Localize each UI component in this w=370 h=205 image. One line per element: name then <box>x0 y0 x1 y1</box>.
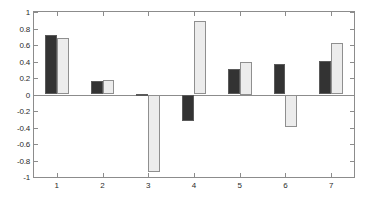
x-axis-tick-label: 1 <box>55 181 59 190</box>
y-axis-tick-right <box>350 111 354 112</box>
y-axis-tick <box>34 177 38 178</box>
y-axis-tick-right <box>350 144 354 145</box>
y-axis-tick <box>34 45 38 46</box>
y-axis-tick-label: 0.8 <box>19 24 30 33</box>
x-axis-tick <box>285 173 286 177</box>
y-axis-tick-label: 0.2 <box>19 74 30 83</box>
x-axis-tick-label: 4 <box>192 181 196 190</box>
y-axis-tick-right <box>350 177 354 178</box>
bar <box>182 95 194 121</box>
y-axis-tick <box>34 29 38 30</box>
y-axis-tick <box>34 62 38 63</box>
bar <box>45 35 57 94</box>
bar <box>136 94 148 96</box>
y-axis-tick <box>34 78 38 79</box>
y-axis-tick-label: -0.8 <box>17 156 30 165</box>
x-axis-tick <box>148 173 149 177</box>
x-axis-tick-top <box>194 12 195 16</box>
y-axis-tick <box>34 144 38 145</box>
bar <box>91 81 103 94</box>
bar <box>319 61 331 95</box>
x-axis-tick <box>57 173 58 177</box>
x-axis-tick <box>103 173 104 177</box>
plot-area: 10.80.60.40.20-0.2-0.4-0.6-0.8-11234567 <box>33 11 355 178</box>
y-axis-tick <box>34 128 38 129</box>
x-axis-tick <box>240 173 241 177</box>
y-axis-tick <box>34 111 38 112</box>
y-axis-tick-label: -0.2 <box>17 107 30 116</box>
y-axis-tick-label: -1 <box>23 173 30 182</box>
bar <box>57 38 69 94</box>
bar <box>194 21 206 94</box>
y-axis-tick-label: 1 <box>26 8 30 17</box>
x-axis-tick-label: 7 <box>329 181 333 190</box>
bar-chart-figure: 10.80.60.40.20-0.2-0.4-0.6-0.8-11234567 <box>0 0 370 205</box>
y-axis-tick <box>34 161 38 162</box>
bar <box>103 80 115 94</box>
bar <box>148 95 160 173</box>
x-axis-tick-label: 5 <box>237 181 241 190</box>
bar <box>285 95 297 127</box>
y-axis-tick-right <box>350 12 354 13</box>
y-axis-tick-right <box>350 45 354 46</box>
y-axis-tick-right <box>350 161 354 162</box>
y-axis-tick-right <box>350 95 354 96</box>
y-axis-tick-right <box>350 62 354 63</box>
y-axis-tick <box>34 95 38 96</box>
x-axis-tick-top <box>285 12 286 16</box>
bar <box>274 64 286 95</box>
x-axis-tick-top <box>331 12 332 16</box>
y-axis-tick-label: 0.6 <box>19 41 30 50</box>
bar <box>331 43 343 94</box>
y-axis-tick-label: 0 <box>26 90 30 99</box>
bar <box>240 62 252 95</box>
x-axis-tick-top <box>57 12 58 16</box>
y-axis-tick <box>34 12 38 13</box>
y-axis-tick-label: 0.4 <box>19 57 30 66</box>
x-axis-tick-top <box>103 12 104 16</box>
zero-baseline <box>34 95 354 96</box>
x-axis-tick-label: 2 <box>100 181 104 190</box>
y-axis-tick-right <box>350 29 354 30</box>
x-axis-tick-label: 3 <box>146 181 150 190</box>
x-axis-tick-label: 6 <box>283 181 287 190</box>
x-axis-tick-top <box>148 12 149 16</box>
x-axis-tick-top <box>240 12 241 16</box>
bar <box>228 69 240 95</box>
y-axis-tick-label: -0.6 <box>17 140 30 149</box>
y-axis-tick-label: -0.4 <box>17 123 30 132</box>
y-axis-tick-right <box>350 128 354 129</box>
y-axis-tick-right <box>350 78 354 79</box>
x-axis-tick <box>331 173 332 177</box>
x-axis-tick <box>194 173 195 177</box>
plot-inner: 10.80.60.40.20-0.2-0.4-0.6-0.8-11234567 <box>34 12 354 177</box>
